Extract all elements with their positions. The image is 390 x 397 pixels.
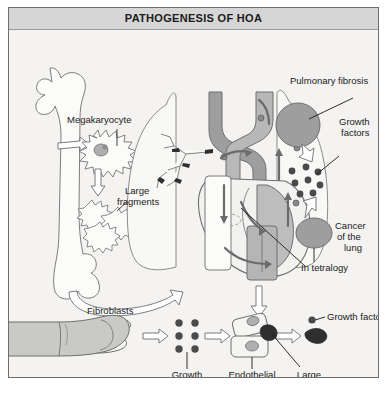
label-pulmonary-fibrosis: Pulmonary fibrosis	[290, 75, 368, 86]
label-cancer-lung-line1: Cancer	[335, 220, 366, 231]
label-endothelial-cell-line1: Endothelial	[223, 369, 281, 377]
hollow-arrow-icon	[251, 286, 267, 317]
left-lung-icon	[127, 93, 176, 270]
label-large-fragments-line1: Large	[125, 185, 149, 196]
label-cancer-lung-line2: of the	[337, 231, 361, 242]
diagram-screenshot: PATHOGENESIS OF HOA	[0, 0, 390, 397]
hollow-arrow-icon	[143, 329, 168, 343]
large-platelet-icon	[260, 325, 277, 341]
descending-aorta-icon	[247, 226, 277, 280]
label-in-tetralogy: In tetralogy	[301, 262, 348, 273]
label-fibroblasts: Fibroblasts	[87, 305, 133, 316]
diagram-canvas: Megakaryocyte Large fragments Pulmonary …	[9, 30, 378, 377]
hollow-arrow-icon	[205, 329, 230, 343]
label-growth-factors-bottom-line1: Growth	[161, 369, 213, 377]
growth-factor-leader-line	[315, 317, 325, 320]
growth-factor-dots-icon	[175, 319, 198, 352]
panel-title: PATHOGENESIS OF HOA	[9, 12, 378, 24]
diagram-panel: PATHOGENESIS OF HOA	[8, 7, 379, 378]
label-large-platelet-line1: Large	[285, 369, 333, 377]
large-platelet-icon	[305, 329, 327, 344]
label-growth-factor: Growth factor	[327, 311, 378, 322]
growth-factor-dots-icon	[308, 316, 315, 323]
pulmonary-fibrosis-mass-icon	[276, 103, 320, 147]
megakaryocyte-cell-icon	[79, 130, 136, 177]
label-cancer-lung-line3: lung	[344, 242, 362, 253]
label-megakaryocyte: Megakaryocyte	[67, 114, 131, 125]
label-growth-factors-right-line2: factors	[341, 127, 370, 138]
label-finger-clubbing: Finger clubbing	[37, 376, 102, 377]
clubbed-finger-icon	[9, 315, 129, 356]
lung-cancer-mass-icon	[296, 218, 332, 248]
femur-bone-icon	[36, 68, 100, 299]
ventricle-outflow-icon	[205, 176, 231, 270]
label-growth-factors-right-line1: Growth	[339, 116, 370, 127]
hollow-arrow-icon	[276, 329, 301, 343]
label-large-fragments-line2: fragments	[117, 196, 159, 207]
